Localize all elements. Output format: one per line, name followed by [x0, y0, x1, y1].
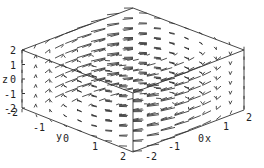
field-arrow — [229, 52, 230, 55]
field-arrow — [34, 94, 36, 98]
y-axis-label: y — [56, 131, 62, 142]
field-arrow — [189, 116, 201, 121]
field-arrow — [230, 91, 232, 95]
y-tick-label: 0 — [63, 133, 69, 144]
z-axis-label: z — [2, 74, 8, 85]
field-arrow — [147, 54, 150, 55]
field-arrow — [201, 101, 203, 104]
field-arrow — [189, 57, 195, 60]
field-arrow — [119, 124, 126, 125]
field-arrow — [65, 78, 77, 83]
field-arrow — [36, 75, 37, 78]
field-arrow — [65, 88, 77, 93]
z-tick-label: -1 — [4, 89, 16, 100]
field-arrow — [216, 86, 221, 90]
z-tick-label: 2 — [10, 45, 16, 56]
field-arrow — [91, 55, 93, 56]
x-tick-label: 1 — [223, 121, 229, 132]
field-arrow — [175, 121, 189, 126]
field-arrow — [175, 101, 189, 106]
field-arrow — [229, 91, 230, 94]
field-arrow — [72, 99, 78, 102]
field-arrow — [230, 61, 232, 65]
field-arrow — [230, 111, 232, 115]
field-arrow — [77, 73, 91, 78]
field-arrow — [175, 111, 189, 116]
field-arrow — [77, 43, 91, 48]
field-arrow — [127, 99, 133, 100]
y-tick-label: 2 — [120, 151, 126, 162]
field-arrow — [172, 103, 174, 104]
field-arrow — [133, 59, 139, 60]
field-arrow — [161, 58, 167, 60]
field-arrow — [229, 81, 230, 84]
field-arrow — [34, 74, 36, 78]
field-arrow — [189, 125, 201, 130]
z-tick-label: 1 — [10, 60, 16, 71]
field-arrow — [216, 96, 221, 100]
field-arrow — [77, 53, 91, 58]
field-arrow — [189, 106, 201, 111]
field-arrow — [91, 66, 96, 67]
y-axis-ticks: -2-1012 — [6, 107, 126, 162]
field-arrow — [36, 65, 37, 68]
field-arrow — [61, 104, 63, 107]
field-arrow — [230, 71, 232, 75]
field-arrow — [77, 34, 91, 39]
field-arrow — [229, 62, 230, 65]
field-arrow — [105, 71, 112, 72]
x-tick-label: 0 — [198, 133, 204, 144]
field-arrow — [45, 79, 50, 83]
field-arrow — [45, 49, 50, 53]
field-arrow — [65, 39, 77, 44]
field-arrow — [154, 48, 161, 49]
field-arrow — [77, 83, 91, 88]
field-arrow — [230, 101, 232, 105]
field-arrow — [64, 55, 66, 57]
field-arrow — [216, 106, 221, 110]
field-arrow — [216, 76, 221, 80]
x-axis-label: x — [205, 133, 211, 144]
field-arrow — [78, 61, 82, 63]
field-arrow — [154, 88, 161, 89]
field-arrow — [34, 84, 36, 88]
field-arrow — [45, 69, 50, 73]
field-arrow — [154, 29, 161, 30]
field-arrow — [154, 58, 161, 59]
field-arrow — [154, 78, 161, 79]
field-arrow — [89, 104, 92, 106]
field-arrow — [34, 64, 36, 68]
y-tick-label: 1 — [92, 141, 98, 152]
field-arrow — [175, 82, 189, 87]
field-arrow — [77, 63, 91, 68]
field-arrow — [45, 99, 50, 103]
vector-field-plot: -2-1012 -2-1012 210-1-2 z y x — [0, 0, 264, 168]
x-tick-label: -2 — [145, 151, 157, 162]
field-arrow — [36, 114, 37, 117]
field-arrow — [65, 49, 77, 54]
field-arrow — [185, 97, 189, 99]
field-arrow — [175, 91, 189, 96]
field-arrow — [36, 95, 37, 98]
field-arrow — [216, 66, 221, 70]
y-tick-label: -2 — [6, 107, 18, 118]
field-arrow — [189, 96, 201, 101]
field-arrow — [45, 89, 50, 93]
field-arrow — [202, 52, 204, 55]
field-arrow — [99, 99, 105, 101]
field-arrow — [189, 86, 201, 91]
x-tick-label: 2 — [246, 112, 252, 123]
y-tick-label: -1 — [33, 122, 45, 133]
field-arrow — [36, 85, 37, 88]
field-arrow — [189, 76, 201, 81]
field-arrow — [229, 101, 230, 104]
field-arrow — [140, 34, 147, 35]
x-tick-label: -1 — [168, 141, 180, 152]
field-arrow — [229, 71, 230, 74]
field-arrow — [65, 59, 77, 64]
field-arrow — [123, 19, 133, 20]
field-arrow — [34, 104, 36, 108]
z-tick-label: 0 — [10, 74, 16, 85]
field-arrow — [175, 53, 178, 55]
field-arrow — [133, 140, 143, 141]
